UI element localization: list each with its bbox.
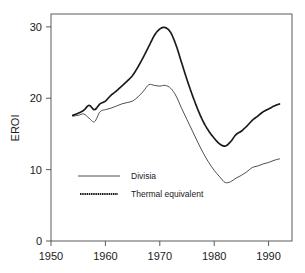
legend-label-divisia: Divisia	[131, 171, 156, 181]
legend-item-divisia: Divisia	[78, 171, 156, 181]
y-tick-label: 10	[30, 164, 42, 176]
y-tick-label: 0	[36, 235, 42, 247]
series-line-thermal-equivalent	[73, 27, 280, 146]
y-tick-label: 30	[30, 21, 42, 33]
series-line-divisia	[73, 84, 280, 182]
legend-item-thermal-equivalent: Thermal equivalent	[80, 189, 204, 199]
y-axis-label: EROI	[9, 115, 21, 142]
x-tick-label: 1970	[148, 250, 172, 262]
x-tick-label: 1950	[39, 250, 63, 262]
legend-label-thermal-equivalent: Thermal equivalent	[131, 189, 204, 199]
plot-frame	[51, 14, 292, 241]
x-axis-ticks: 19501960197019801990	[39, 241, 281, 262]
chart-legend: Divisia Thermal equivalent	[78, 171, 204, 199]
chart-canvas: EROI 0102030 19501960197019801990 Divisi…	[0, 0, 305, 273]
y-tick-label: 20	[30, 92, 42, 104]
x-tick-label: 1960	[93, 250, 117, 262]
x-tick-label: 1990	[256, 250, 280, 262]
x-tick-label: 1980	[202, 250, 226, 262]
eroi-line-chart: EROI 0102030 19501960197019801990 Divisi…	[0, 0, 305, 273]
y-axis-ticks: 0102030	[30, 21, 51, 247]
